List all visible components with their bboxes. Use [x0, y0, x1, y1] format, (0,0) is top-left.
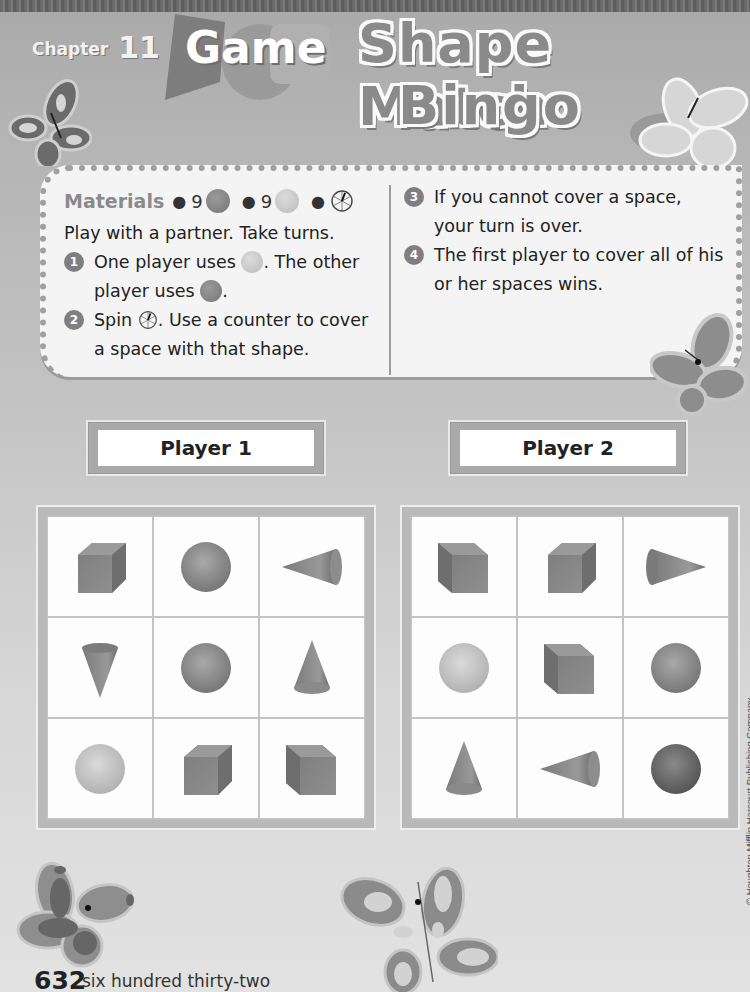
cube-shape-icon [170, 733, 242, 805]
step-text: . [222, 281, 228, 301]
bingo-cell[interactable] [623, 718, 729, 819]
column-divider [389, 185, 391, 375]
page-title-line-2: Bingo [398, 74, 582, 137]
bingo-cell[interactable] [411, 718, 517, 819]
spinner-icon [330, 189, 354, 213]
material-quantity: 9 [261, 191, 272, 212]
instructions-card: Materials ● 9 ● 9 ● Play with a partner.… [40, 165, 742, 377]
cube-shape-icon [428, 531, 500, 603]
cube-shape-icon [534, 632, 606, 704]
game-label: Game [185, 22, 327, 73]
cone-shape-icon [276, 632, 348, 704]
bingo-cell[interactable] [517, 718, 623, 819]
bingo-cell[interactable] [623, 516, 729, 617]
cube-shape-icon [276, 733, 348, 805]
butterfly-icon [10, 858, 135, 968]
bingo-cell[interactable] [259, 617, 365, 718]
page-number: 632 [34, 966, 86, 992]
step-number-badge: 1 [64, 252, 84, 272]
bingo-cell[interactable] [623, 617, 729, 718]
light-counter-icon [275, 189, 299, 213]
page-number-words: six hundred thirty-two [82, 971, 270, 991]
sphere-shape-icon [428, 632, 500, 704]
instructions-right-column: 3 If you cannot cover a space, your turn… [404, 183, 724, 299]
step-text: One player uses [94, 252, 236, 272]
butterfly-icon [6, 78, 92, 166]
butterfly-icon [338, 862, 498, 992]
player-1-label: Player 1 [98, 430, 314, 466]
step-text: If you cannot cover a space, your turn i… [434, 183, 724, 241]
materials-label: Materials [64, 190, 164, 212]
bingo-cell[interactable] [47, 718, 153, 819]
bingo-cell[interactable] [517, 516, 623, 617]
bingo-cell[interactable] [153, 718, 259, 819]
cone-shape-icon [640, 531, 712, 603]
bingo-cell[interactable] [517, 617, 623, 718]
material-quantity: 9 [191, 191, 202, 212]
bingo-grid [46, 515, 366, 820]
bingo-cell[interactable] [259, 718, 365, 819]
player-1-label-box: Player 1 [86, 420, 326, 476]
bingo-grid [410, 515, 730, 820]
bingo-cell[interactable] [411, 617, 517, 718]
sphere-shape-icon [640, 733, 712, 805]
top-border-strip [0, 0, 750, 12]
cone-shape-icon [64, 632, 136, 704]
step-1: 1 One player uses . The other player use… [64, 248, 384, 306]
cone-shape-icon [276, 531, 348, 603]
sphere-shape-icon [640, 632, 712, 704]
materials-row: Materials ● 9 ● 9 ● [64, 183, 384, 219]
intro-text: Play with a partner. Take turns. [64, 219, 384, 248]
player-2-bingo-board [400, 505, 740, 830]
dark-counter-icon [200, 280, 222, 302]
light-counter-icon [241, 251, 263, 273]
step-2: 2 Spin . Use a counter to cover a space … [64, 306, 384, 364]
bingo-cell[interactable] [47, 516, 153, 617]
step-4: 4 The first player to cover all of his o… [404, 241, 724, 299]
chapter-label: Chapter 11 [32, 30, 160, 65]
cone-shape-icon [428, 733, 500, 805]
step-number-badge: 4 [404, 245, 424, 265]
sphere-shape-icon [64, 733, 136, 805]
cube-shape-icon [534, 531, 606, 603]
sphere-shape-icon [170, 632, 242, 704]
step-number-badge: 2 [64, 310, 84, 330]
sphere-shape-icon [170, 531, 242, 603]
copyright-notice: © Houghton Mifflin Harcourt Publishing C… [744, 698, 750, 905]
spinner-icon [138, 310, 158, 330]
step-text: Spin [94, 310, 132, 330]
bingo-cell[interactable] [153, 516, 259, 617]
step-number-badge: 3 [404, 187, 424, 207]
dark-counter-icon [206, 189, 230, 213]
chapter-number: 11 [118, 30, 160, 65]
bingo-cell[interactable] [411, 516, 517, 617]
butterfly-icon [650, 312, 750, 418]
player-2-label: Player 2 [460, 430, 676, 466]
cube-shape-icon [64, 531, 136, 603]
player-1-bingo-board [36, 505, 376, 830]
cone-shape-icon [534, 733, 606, 805]
bingo-cell[interactable] [47, 617, 153, 718]
step-3: 3 If you cannot cover a space, your turn… [404, 183, 724, 241]
butterfly-icon [628, 68, 750, 176]
step-text: . Use a counter to cover a space with th… [94, 310, 368, 359]
bingo-cell[interactable] [153, 617, 259, 718]
step-text: The first player to cover all of his or … [434, 241, 724, 299]
player-2-label-box: Player 2 [448, 420, 688, 476]
bingo-cell[interactable] [259, 516, 365, 617]
chapter-text: Chapter [32, 39, 108, 59]
instructions-left-column: Materials ● 9 ● 9 ● Play with a partner.… [64, 183, 384, 364]
